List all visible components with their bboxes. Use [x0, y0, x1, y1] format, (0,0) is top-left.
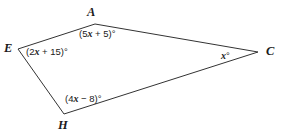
angle-a-suffix: + 5)° [92, 28, 115, 39]
angle-h-suffix: − 8)° [78, 93, 101, 104]
angle-label-h: (4x − 8)° [65, 94, 102, 104]
quadrilateral-diagram: A C H E (5x + 5)° (2x + 15)° (4x − 8)° x… [0, 0, 283, 136]
angle-label-c: x° [221, 51, 230, 61]
vertex-label-a: A [87, 6, 95, 19]
vertex-label-e: E [4, 42, 12, 55]
angle-e-suffix: + 15)° [39, 46, 67, 57]
vertex-label-c: C [266, 45, 274, 58]
vertex-label-h: H [58, 119, 68, 132]
angle-label-e: (2x + 15)° [26, 47, 68, 57]
quadrilateral-shape [0, 0, 283, 136]
quadrilateral-outline [18, 24, 258, 114]
angle-c-suffix: ° [226, 50, 230, 61]
angle-label-a: (5x + 5)° [79, 29, 116, 39]
